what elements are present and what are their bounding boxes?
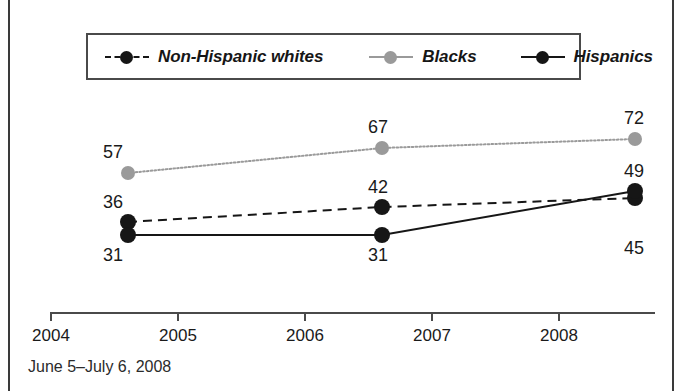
value-label-non-hispanic-whites-2004: 36 (103, 192, 123, 213)
x-axis-line (50, 312, 655, 314)
data-point-hispanics-2008 (627, 183, 643, 199)
x-axis-label-2005: 2005 (159, 326, 197, 346)
data-point-blacks-2004 (121, 166, 135, 180)
data-point-hispanics-2006 (374, 227, 390, 243)
x-axis-tick-2008 (558, 312, 560, 321)
data-point-blacks-2008 (628, 132, 642, 146)
value-label-hispanics-2006: 31 (368, 245, 388, 266)
value-label-blacks-2004: 57 (103, 142, 123, 163)
chart-figure: Non-Hispanic whites Blacks Hispanics (0, 0, 684, 391)
x-axis-tick-2006 (304, 312, 306, 321)
value-label-blacks-2006: 67 (368, 117, 388, 138)
value-label-hispanics-2004: 31 (103, 245, 123, 266)
value-label-non-hispanic-whites-2008: 45 (624, 238, 644, 259)
x-axis-label-2007: 2007 (413, 326, 451, 346)
x-axis-label-2008: 2008 (540, 326, 578, 346)
chart-footnote: June 5–July 6, 2008 (28, 358, 171, 376)
data-point-non-hispanic-whites-2006 (374, 199, 390, 215)
value-label-non-hispanic-whites-2006: 42 (368, 177, 388, 198)
x-axis-tick-2004 (50, 312, 52, 321)
data-point-blacks-2006 (375, 141, 389, 155)
value-label-hispanics-2008: 49 (624, 161, 644, 182)
x-axis-tick-2005 (177, 312, 179, 321)
x-axis-label-2004: 2004 (32, 326, 70, 346)
x-axis-label-2006: 2006 (286, 326, 324, 346)
x-axis-tick-2007 (431, 312, 433, 321)
data-point-hispanics-2004 (120, 227, 136, 243)
value-label-blacks-2008: 72 (624, 108, 644, 129)
